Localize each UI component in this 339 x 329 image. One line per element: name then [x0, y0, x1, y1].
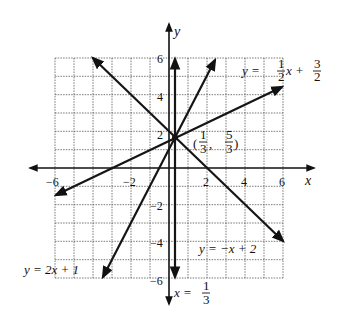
tick-y-6: 6 [157, 52, 163, 66]
svg-text:2: 2 [314, 69, 321, 84]
svg-text:5: 5 [226, 127, 233, 142]
svg-text:): ) [234, 136, 238, 151]
y-axis-label: y [172, 24, 181, 39]
tick-y-2: 2 [157, 128, 163, 142]
label-y-eq-2x-plus-1: y = 2x + 1 [22, 262, 79, 277]
svg-text:x =: x = [173, 285, 192, 300]
svg-text:,: , [209, 136, 212, 151]
svg-text:3: 3 [200, 141, 207, 156]
svg-text:y =: y = [240, 63, 260, 78]
svg-text:1: 1 [200, 127, 207, 142]
tick-x-neg2: −2 [123, 175, 136, 189]
svg-text:2: 2 [278, 69, 285, 84]
tick-y-neg6: −6 [150, 274, 163, 288]
intersection-point [172, 135, 178, 141]
svg-text:3: 3 [226, 141, 233, 156]
tick-y-neg4: −4 [150, 236, 163, 250]
svg-text:(: ( [193, 136, 197, 151]
graph-canvas: y x −6 −2 2 4 6 6 4 2 −2 −4 −6 y = −x + … [0, 0, 339, 329]
svg-text:1: 1 [203, 278, 210, 293]
x-axis-label: x [304, 173, 312, 188]
tick-y-4: 4 [157, 90, 163, 104]
tick-x-4: 4 [241, 175, 247, 189]
tick-x-6: 6 [279, 175, 285, 189]
label-y-eq-half-x-plus-three-halves: y = 1 2 x + 3 2 [240, 56, 321, 84]
tick-y-neg2: −2 [150, 199, 163, 213]
tick-x-neg6: −6 [46, 175, 59, 189]
label-y-eq-neg-x-plus-2: y = −x + 2 [197, 241, 257, 256]
tick-x-2: 2 [203, 175, 209, 189]
svg-text:3: 3 [203, 292, 210, 307]
label-x-eq-one-third: x = 1 3 [173, 278, 210, 307]
svg-text:x +: x + [285, 63, 304, 78]
